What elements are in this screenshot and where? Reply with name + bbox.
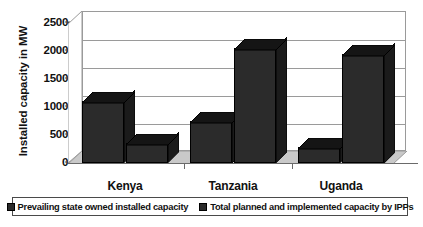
bar-front-face [82, 101, 124, 163]
plot-area: KenyaTanzaniaUganda [68, 11, 418, 181]
y-axis-tick-1500: 1500 [22, 72, 68, 84]
bar-front-face [190, 121, 232, 163]
bars-layer [68, 11, 418, 181]
y-axis-tick-500: 500 [22, 128, 68, 140]
y-axis-tick-2500: 2500 [22, 16, 68, 28]
bar-side-face [384, 43, 395, 163]
bar-top-face [234, 37, 287, 48]
legend-label: Prevailing state owned installed capacit… [18, 202, 189, 212]
x-axis-tickmark [184, 163, 185, 169]
category-label-tanzania: Tanzania [178, 179, 288, 193]
bar-uganda-series1 [298, 136, 340, 163]
bar-kenya-series1 [82, 90, 124, 163]
category-label-kenya: Kenya [70, 179, 180, 193]
y-axis-tick-2000: 2000 [22, 44, 68, 56]
bar-top-face [82, 90, 135, 101]
bar-front-face [342, 54, 384, 163]
chart-legend: Prevailing state owned installed capacit… [12, 197, 408, 216]
bar-side-face [276, 37, 287, 163]
x-axis-line [68, 163, 418, 164]
bar-chart: Installed capacity in MW 050010001500200… [0, 0, 423, 227]
category-label-uganda: Uganda [286, 179, 396, 193]
legend-item-1: Prevailing state owned installed capacit… [7, 202, 189, 212]
legend-item-2: Total planned and implemented capacity b… [199, 202, 413, 212]
bar-front-face [234, 48, 276, 163]
bar-tanzania-series1 [190, 110, 232, 163]
y-axis-tick-0: 0 [22, 156, 68, 168]
y-axis-tick-labels: 05001000150020002500 [18, 0, 68, 180]
bar-uganda-series2 [342, 43, 384, 163]
x-axis-tickmark [292, 163, 293, 169]
bar-top-face [126, 132, 179, 143]
bar-top-face [342, 43, 395, 54]
y-axis-tick-1000: 1000 [22, 100, 68, 112]
bar-tanzania-series2 [234, 37, 276, 163]
legend-swatch-icon [7, 203, 15, 211]
bar-kenya-series2 [126, 132, 168, 163]
legend-swatch-icon [199, 203, 207, 211]
legend-label: Total planned and implemented capacity b… [210, 202, 413, 212]
